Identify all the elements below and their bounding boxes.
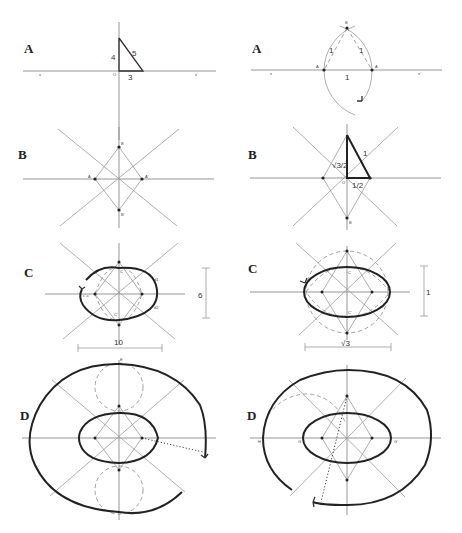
point-bottom bbox=[346, 479, 349, 482]
apex-label: B bbox=[345, 20, 348, 25]
panel-left-a: A x x' 4 5 3 O bbox=[23, 22, 216, 140]
origin-label: O bbox=[113, 72, 116, 77]
h-label: H bbox=[258, 439, 261, 444]
outer-spiral-curve bbox=[30, 364, 206, 513]
d1-label: d1 bbox=[154, 277, 159, 282]
point-bottom bbox=[118, 469, 121, 472]
x-label: x bbox=[39, 72, 41, 77]
e-label: E bbox=[120, 357, 123, 362]
point-a-prime bbox=[140, 177, 143, 180]
c-label: C bbox=[120, 269, 123, 274]
point-left bbox=[321, 176, 324, 179]
height-label: 6 bbox=[198, 291, 203, 300]
c-label: C bbox=[348, 270, 351, 275]
point-left bbox=[321, 437, 324, 440]
triangle-3-4-5 bbox=[119, 38, 143, 71]
side-left-label: 1 bbox=[329, 46, 334, 55]
arrow-head bbox=[357, 96, 362, 101]
diagonal-2 bbox=[299, 243, 396, 335]
point-right bbox=[371, 437, 374, 440]
c-prime-label: C' bbox=[348, 310, 352, 315]
arc-right bbox=[340, 26, 372, 101]
x-prime-label: x' bbox=[195, 72, 198, 77]
c-prime-label: C' bbox=[114, 312, 118, 317]
origin-label: O bbox=[342, 180, 345, 185]
arrow-head bbox=[300, 278, 307, 283]
x-label: x bbox=[270, 71, 272, 76]
point-top bbox=[346, 250, 349, 253]
diagonal-1 bbox=[58, 129, 177, 226]
panel-left-d: D E bbox=[20, 357, 216, 520]
a-prime-label: A' bbox=[145, 174, 149, 179]
panel-right-d: D H G G' bbox=[247, 365, 441, 515]
side-half-label: 1/2 bbox=[352, 181, 364, 190]
x-prime-label: x' bbox=[418, 71, 421, 76]
panel-right-c: C C C' 1 √3 bbox=[248, 243, 431, 351]
rhombus bbox=[95, 262, 142, 325]
height-label: 1 bbox=[426, 288, 431, 297]
width-label: 10 bbox=[114, 338, 123, 347]
panel-label-left-c: C bbox=[24, 265, 33, 280]
panel-left-c: C C C' d1 d2 c'-c' 6 10 bbox=[24, 243, 210, 352]
point-right bbox=[368, 176, 371, 179]
point-top bbox=[118, 405, 121, 408]
base-label: 1 bbox=[345, 73, 350, 82]
point-a bbox=[93, 177, 96, 180]
b-prime-label: B' bbox=[121, 212, 125, 217]
a-right-label: A bbox=[375, 64, 378, 69]
a-label: A bbox=[88, 174, 91, 179]
geometry-figure: A x x' 4 5 3 O A x x' B A A 1 1 1 B bbox=[0, 0, 462, 533]
g-prime-label: G' bbox=[394, 439, 398, 444]
point-right bbox=[141, 293, 144, 296]
c-left-label: c'-c' bbox=[83, 293, 90, 298]
dotted-radius bbox=[321, 396, 347, 502]
side-4-label: 4 bbox=[111, 53, 116, 62]
panel-label-left-b: B bbox=[18, 147, 27, 162]
point-left bbox=[321, 291, 324, 294]
a-left-label: A bbox=[316, 64, 319, 69]
point-bottom bbox=[346, 332, 349, 335]
point-bottom bbox=[118, 324, 121, 327]
point-a-left bbox=[322, 68, 325, 71]
panel-right-a: A x x' B A A 1 1 1 bbox=[251, 20, 442, 115]
arrow-head bbox=[79, 286, 85, 289]
point-a-right bbox=[370, 68, 373, 71]
side-3-label: 3 bbox=[128, 73, 133, 82]
side-left bbox=[324, 28, 347, 70]
point-right bbox=[371, 291, 374, 294]
panel-left-b: B B B' A A' bbox=[18, 127, 214, 228]
point-right bbox=[141, 437, 144, 440]
panel-label-left-a: A bbox=[24, 41, 34, 56]
point-left bbox=[94, 437, 97, 440]
width-label: √3 bbox=[341, 339, 350, 348]
g-label: G bbox=[298, 439, 301, 444]
point-top bbox=[346, 395, 349, 398]
side-1-label: 1 bbox=[363, 149, 368, 158]
point-top bbox=[118, 261, 121, 264]
panel-label-left-d: D bbox=[20, 408, 29, 423]
point-left bbox=[94, 293, 97, 296]
d2-label: d2 bbox=[154, 305, 159, 310]
panel-label-right-a: A bbox=[252, 41, 262, 56]
apex-point bbox=[345, 26, 348, 29]
panel-label-right-c: C bbox=[248, 261, 257, 276]
panel-label-right-d: D bbox=[247, 408, 256, 423]
panel-label-right-b: B bbox=[248, 147, 257, 162]
side-sqrt3-2-label: √3/2 bbox=[332, 161, 348, 170]
side-5-label: 5 bbox=[132, 49, 137, 58]
side-right-label: 1 bbox=[359, 46, 364, 55]
panel-right-b: B √3/2 1 1/2 O B bbox=[248, 124, 441, 230]
b-label: B bbox=[349, 220, 352, 225]
b-label: B bbox=[121, 141, 124, 146]
arc-left bbox=[324, 26, 355, 115]
